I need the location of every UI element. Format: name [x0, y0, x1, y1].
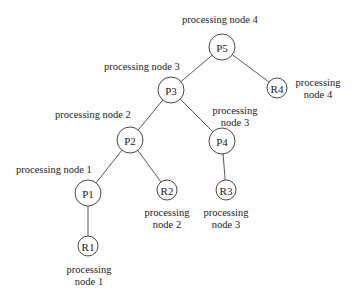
processing-label-r4: processingnode 4 — [296, 77, 342, 100]
node-label: R3 — [220, 185, 233, 197]
node-p1: P1 — [75, 180, 101, 206]
edge-p2-p1 — [96, 150, 122, 183]
processing-label-p4: processingnode 3 — [213, 105, 259, 128]
edge-p5-p3 — [181, 55, 212, 81]
node-p5: P5 — [209, 34, 235, 60]
node-r4: R4 — [267, 78, 287, 98]
edge-p3-p4 — [180, 99, 213, 132]
edge-p2-r2 — [138, 150, 161, 182]
node-p3: P3 — [158, 77, 184, 103]
edge-p4-r3 — [223, 154, 225, 180]
edge-p3-p2 — [138, 100, 163, 130]
processing-label-p5: processing node 4 — [182, 14, 259, 25]
processing-label-r3: processingnode 3 — [204, 207, 250, 230]
node-label: P4 — [216, 136, 228, 148]
node-label: R1 — [82, 241, 95, 253]
node-r3: R3 — [216, 180, 236, 200]
node-p4: P4 — [209, 128, 235, 154]
node-label: P1 — [82, 188, 94, 200]
node-p2: P2 — [117, 127, 143, 153]
processing-label-p1: processing node 1 — [16, 164, 92, 175]
node-label: R4 — [271, 83, 284, 95]
edge-p5-r4 — [232, 55, 269, 82]
tree-diagram: P5P3R4P2P4P1R2R3R1 processing node 4proc… — [0, 0, 357, 300]
processing-label-p2: processing node 2 — [55, 109, 131, 120]
node-r1: R1 — [78, 236, 98, 256]
node-label: R2 — [161, 185, 174, 197]
node-label: P5 — [216, 42, 228, 54]
node-r2: R2 — [157, 180, 177, 200]
processing-label-r1: processingnode 1 — [67, 264, 113, 287]
node-label: P3 — [165, 85, 177, 97]
node-label: P2 — [124, 135, 136, 147]
processing-label-p3: processing node 3 — [104, 61, 180, 72]
node-labels: processing node 4processing node 3proces… — [16, 14, 341, 287]
processing-label-r2: processingnode 2 — [145, 207, 191, 230]
